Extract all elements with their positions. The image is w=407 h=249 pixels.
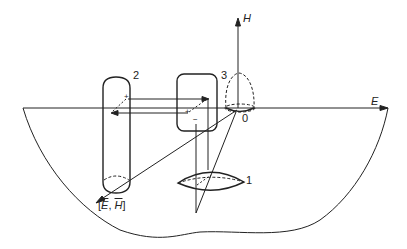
charge-plus-3: +: [185, 108, 190, 116]
e-axis-label: E: [371, 96, 378, 107]
h-axis-arrow-icon: [236, 18, 241, 26]
bracket-close: ]: [122, 199, 125, 211]
object-2-label: 2: [133, 70, 139, 81]
origin-bulb: [226, 73, 254, 108]
object-1-label: 1: [246, 175, 252, 186]
transfer-arrow-left-icon: [111, 111, 118, 116]
eh-axis-label: [E, H]: [98, 200, 126, 211]
diagram-svg: [0, 0, 407, 249]
h-axis-label: H: [243, 13, 251, 24]
charge-minus: −: [193, 116, 198, 124]
diagram-canvas: H E 0 2 3 1 + + − [E, H]: [0, 0, 407, 249]
object-2-bottom-dashed: [104, 176, 129, 180]
charge-plus-2: +: [124, 93, 129, 101]
e-axis-arrow-icon: [380, 106, 388, 111]
origin-label: 0: [242, 113, 248, 124]
object-3-label: 3: [221, 70, 227, 81]
